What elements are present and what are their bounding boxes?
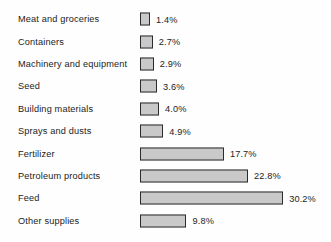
bar-and-value: 1.4% [140, 13, 178, 26]
bar-row: Building materials4.0% [0, 98, 331, 120]
bar-value-label: 1.4% [156, 14, 178, 24]
bar [140, 125, 163, 138]
bar-category-label: Meat and groceries [18, 14, 99, 24]
bar [140, 35, 153, 48]
bar-row: Seed3.6% [0, 75, 331, 97]
bar-row: Feed30.2% [0, 187, 331, 209]
bar [140, 80, 157, 93]
bar [140, 214, 186, 227]
bar [140, 147, 224, 160]
bar-category-label: Feed [18, 193, 40, 203]
bar-value-label: 9.8% [192, 216, 214, 226]
horizontal-bar-chart: Meat and groceries1.4%Containers2.7%Mach… [0, 0, 331, 242]
bar-value-label: 4.9% [169, 126, 191, 136]
bar [140, 102, 159, 115]
bar-category-label: Petroleum products [18, 171, 100, 181]
bar-and-value: 2.9% [140, 57, 181, 70]
bar-row: Machinery and equipment2.9% [0, 53, 331, 75]
bar-value-label: 2.7% [159, 37, 181, 47]
bar-value-label: 17.7% [230, 149, 257, 159]
bar-row: Fertilizer17.7% [0, 142, 331, 164]
bar [140, 13, 150, 26]
bar-value-label: 4.0% [165, 104, 187, 114]
bar-category-label: Machinery and equipment [18, 59, 127, 69]
bar-row: Containers2.7% [0, 30, 331, 52]
bar-value-label: 22.8% [254, 171, 281, 181]
bar-category-label: Seed [18, 81, 40, 91]
bar [140, 192, 283, 205]
bar-value-label: 30.2% [289, 193, 316, 203]
bar-and-value: 2.7% [140, 35, 180, 48]
bar-rows-container: Meat and groceries1.4%Containers2.7%Mach… [0, 8, 331, 232]
bar-category-label: Building materials [18, 104, 93, 114]
bar-category-label: Containers [18, 37, 64, 47]
bar-and-value: 4.9% [140, 125, 191, 138]
bar-and-value: 22.8% [140, 169, 281, 182]
bar-category-label: Sprays and dusts [18, 126, 91, 136]
bar [140, 57, 154, 70]
bar-row: Other supplies9.8% [0, 210, 331, 232]
bar-value-label: 2.9% [160, 59, 182, 69]
bar-category-label: Other supplies [18, 216, 79, 226]
bar-and-value: 9.8% [140, 214, 214, 227]
bar-value-label: 3.6% [163, 81, 185, 91]
bar-category-label: Fertilizer [18, 149, 55, 159]
bar-row: Meat and groceries1.4% [0, 8, 331, 30]
bar-row: Sprays and dusts4.9% [0, 120, 331, 142]
bar-row: Petroleum products22.8% [0, 165, 331, 187]
bar-and-value: 3.6% [140, 80, 185, 93]
bar-and-value: 4.0% [140, 102, 187, 115]
bar-and-value: 17.7% [140, 147, 257, 160]
bar-and-value: 30.2% [140, 192, 316, 205]
bar [140, 169, 248, 182]
